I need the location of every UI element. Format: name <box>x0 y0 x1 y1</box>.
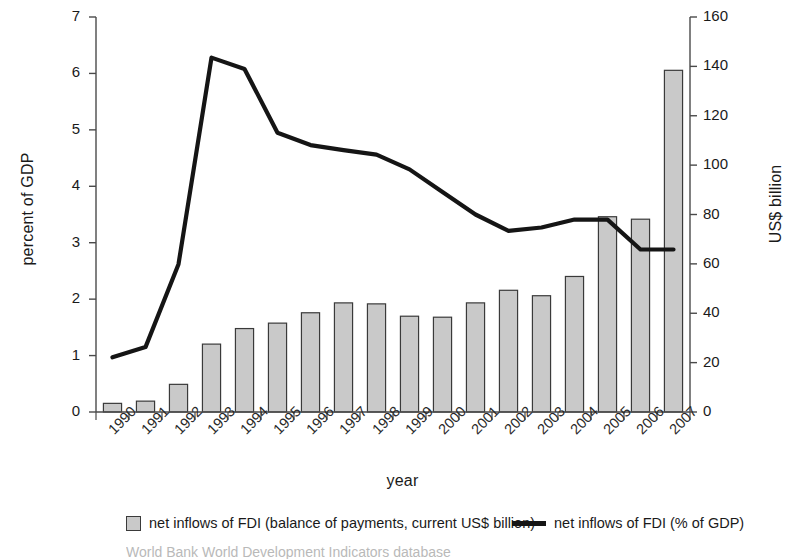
legend-line-label: net inflows of FDI (% of GDP) <box>554 515 744 531</box>
y-right-tick-0: 0 <box>703 402 751 419</box>
line-series-percent-of-gdp <box>113 58 674 358</box>
bar-1999 <box>400 316 418 412</box>
legend-bar-swatch-icon <box>126 516 141 531</box>
bar-1998 <box>367 304 385 412</box>
y-right-tick-80: 80 <box>703 205 751 222</box>
legend-item-bars: net inflows of FDI (balance of payments,… <box>126 515 535 531</box>
legend-bar-label: net inflows of FDI (balance of payments,… <box>149 515 535 531</box>
bar-1993 <box>202 344 220 412</box>
y-right-tick-120: 120 <box>703 106 751 123</box>
bar-1997 <box>334 303 352 412</box>
y-left-tick-5: 5 <box>40 120 80 137</box>
y-left-tick-3: 3 <box>40 233 80 250</box>
x-axis-title: year <box>0 472 805 490</box>
y-left-tick-0: 0 <box>40 402 80 419</box>
bar-1995 <box>268 323 286 412</box>
bar-1996 <box>301 313 319 412</box>
bar-1994 <box>235 329 253 412</box>
y-axis-left-title: percent of GDP <box>19 119 37 299</box>
y-left-tick-1: 1 <box>40 346 80 363</box>
y-left-tick-7: 7 <box>40 7 80 24</box>
bar-2000 <box>433 317 451 412</box>
y-right-tick-100: 100 <box>703 155 751 172</box>
bar-2001 <box>466 303 484 412</box>
y-right-tick-60: 60 <box>703 254 751 271</box>
bar-2007 <box>664 70 682 412</box>
y-right-tick-160: 160 <box>703 7 751 24</box>
y-left-tick-2: 2 <box>40 289 80 306</box>
legend-item-line: net inflows of FDI (% of GDP) <box>512 515 744 531</box>
fdi-chart-figure: percent of GDP US$ billion year 01234567… <box>0 0 805 559</box>
source-note: World Bank World Development Indicators … <box>126 544 451 559</box>
y-right-tick-140: 140 <box>703 56 751 73</box>
y-axis-right-title: US$ billion <box>767 114 785 294</box>
bar-2003 <box>532 296 550 412</box>
bar-2004 <box>565 276 583 412</box>
legend-line-swatch-icon <box>512 521 546 526</box>
bar-2005 <box>598 217 616 412</box>
y-left-tick-6: 6 <box>40 63 80 80</box>
y-left-tick-4: 4 <box>40 176 80 193</box>
bar-1992 <box>169 384 187 412</box>
bar-2002 <box>499 290 517 412</box>
y-right-tick-20: 20 <box>703 353 751 370</box>
y-right-tick-40: 40 <box>703 303 751 320</box>
